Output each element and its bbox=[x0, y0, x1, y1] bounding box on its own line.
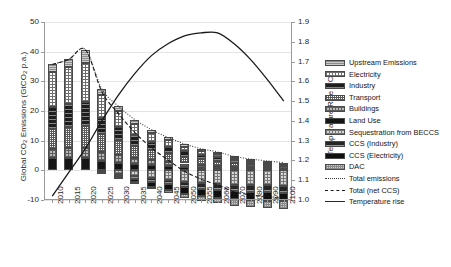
legend-label: CCS (Electricity) bbox=[349, 152, 403, 159]
legend-item: Sequestration from BECCS bbox=[325, 127, 449, 139]
legend-swatch bbox=[325, 83, 345, 89]
y-tick-label-right: 1.7 bbox=[298, 57, 324, 66]
x-tick-label: 2100 bbox=[288, 186, 297, 204]
line-temperature-rise bbox=[52, 32, 283, 196]
y-tick-label-right: 1.6 bbox=[298, 76, 324, 85]
legend-swatch bbox=[325, 71, 345, 77]
legend-item: DAC bbox=[325, 161, 449, 173]
x-tick-label: 2010 bbox=[56, 186, 65, 204]
legend-label: Electricity bbox=[349, 71, 381, 78]
legend-swatch bbox=[325, 95, 345, 101]
y-tick-label-left: 0 bbox=[13, 165, 39, 174]
legend-item: Land Use bbox=[325, 115, 449, 127]
y-tick-label-left: 20 bbox=[13, 106, 39, 115]
x-tick-label: 2025 bbox=[106, 186, 115, 204]
y-tick-mark-left bbox=[41, 200, 44, 201]
y-tick-label-right: 1.9 bbox=[298, 17, 324, 26]
y-tick-mark-right bbox=[292, 62, 295, 63]
legend-item: Buildings bbox=[325, 103, 449, 115]
legend-label: CCS (Industry) bbox=[349, 140, 398, 147]
legend-item: Temperature rise bbox=[325, 196, 449, 208]
lines-layer bbox=[44, 22, 292, 200]
legend-swatch bbox=[325, 118, 345, 124]
y-tick-mark-left bbox=[41, 81, 44, 82]
legend-swatch bbox=[325, 164, 345, 170]
x-tick-mark bbox=[102, 200, 103, 203]
legend-item: Total emissions bbox=[325, 173, 449, 185]
line-total-net-ccs- bbox=[52, 48, 283, 198]
y-tick-label-left: 50 bbox=[13, 17, 39, 26]
x-tick-label: 2035 bbox=[139, 186, 148, 204]
x-tick-label: 2090 bbox=[271, 186, 280, 204]
y-tick-label-left: 30 bbox=[13, 76, 39, 85]
x-tick-mark bbox=[168, 200, 169, 203]
legend-item: Industry bbox=[325, 80, 449, 92]
legend-label: Sequestration from BECCS bbox=[349, 129, 439, 136]
x-tick-mark bbox=[267, 200, 268, 203]
legend-label: Buildings bbox=[349, 105, 379, 112]
x-tick-mark bbox=[118, 200, 119, 203]
y-tick-label-left: -10 bbox=[13, 195, 39, 204]
x-tick-mark bbox=[234, 200, 235, 203]
x-tick-label: 2015 bbox=[73, 186, 82, 204]
y-tick-label-right: 1.8 bbox=[298, 37, 324, 46]
legend-item: CCS (Industry) bbox=[325, 138, 449, 150]
legend-label: DAC bbox=[349, 163, 365, 170]
x-tick-mark bbox=[218, 200, 219, 203]
legend-item: Upstream Emissions bbox=[325, 57, 449, 69]
x-tick-label: 2020 bbox=[89, 186, 98, 204]
legend-label: Land Use bbox=[349, 117, 381, 124]
legend-line-sample bbox=[325, 187, 345, 194]
legend-label: Transport bbox=[349, 94, 380, 101]
y-tick-mark-right bbox=[292, 101, 295, 102]
legend-swatch bbox=[325, 60, 345, 66]
legend-label: Upstream Emissions bbox=[349, 59, 417, 66]
x-tick-mark bbox=[185, 200, 186, 203]
x-tick-label: 2055 bbox=[205, 186, 214, 204]
chart-legend: Upstream EmissionsElectricityIndustryTra… bbox=[325, 57, 449, 208]
legend-item: Electricity bbox=[325, 69, 449, 81]
legend-label: Industry bbox=[349, 82, 375, 89]
x-tick-label: 2040 bbox=[155, 186, 164, 204]
legend-item: CCS (Electricity) bbox=[325, 150, 449, 162]
y-tick-mark-right bbox=[292, 81, 295, 82]
legend-line-sample bbox=[325, 198, 345, 205]
legend-item: Transport bbox=[325, 92, 449, 104]
legend-swatch bbox=[325, 129, 345, 135]
x-tick-mark bbox=[284, 200, 285, 203]
x-tick-mark bbox=[52, 200, 53, 203]
legend-label: Total emissions bbox=[349, 175, 400, 182]
legend-label: Total (net CCS) bbox=[349, 187, 400, 194]
y-tick-mark-left bbox=[41, 141, 44, 142]
legend-item: Total (net CCS) bbox=[325, 185, 449, 197]
legend-swatch bbox=[325, 153, 345, 159]
y-tick-label-right: 1.5 bbox=[298, 96, 324, 105]
y-tick-mark-left bbox=[41, 52, 44, 53]
x-tick-label: 2045 bbox=[172, 186, 181, 204]
plot-area bbox=[44, 22, 292, 200]
y-axis-left-line bbox=[44, 22, 45, 200]
y-tick-label-right: 1.4 bbox=[298, 116, 324, 125]
x-tick-label: 2030 bbox=[122, 186, 131, 204]
y-tick-mark-right bbox=[292, 180, 295, 181]
x-tick-label: 2080 bbox=[255, 186, 264, 204]
y-tick-label-right: 1.0 bbox=[298, 195, 324, 204]
y-tick-label-right: 1.1 bbox=[298, 175, 324, 184]
x-tick-label: 2070 bbox=[238, 186, 247, 204]
y-tick-mark-left bbox=[41, 22, 44, 23]
y-tick-mark-right bbox=[292, 160, 295, 161]
x-tick-mark bbox=[151, 200, 152, 203]
x-tick-mark bbox=[85, 200, 86, 203]
x-tick-mark bbox=[69, 200, 70, 203]
legend-line-sample bbox=[325, 175, 345, 182]
y-axis-right-line bbox=[291, 22, 292, 200]
emissions-chart: Global CO2 Emissions (GtCO2 p.a.) Temper… bbox=[0, 0, 451, 267]
legend-label: Temperature rise bbox=[349, 198, 404, 205]
y-tick-label-left: 40 bbox=[13, 47, 39, 56]
x-tick-mark bbox=[201, 200, 202, 203]
y-tick-mark-left bbox=[41, 170, 44, 171]
y-tick-mark-right bbox=[292, 141, 295, 142]
y-tick-mark-left bbox=[41, 111, 44, 112]
legend-swatch bbox=[325, 141, 345, 147]
y-tick-mark-right bbox=[292, 22, 295, 23]
